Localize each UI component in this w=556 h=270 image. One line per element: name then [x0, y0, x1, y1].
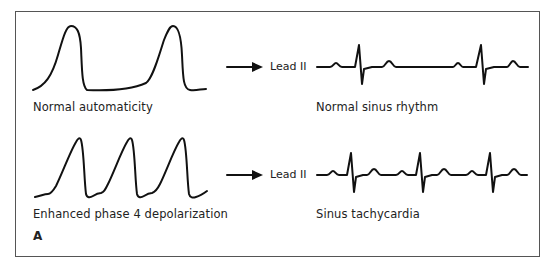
ecg-sinus-tachycardia: [317, 153, 527, 192]
label-enhanced-phase4: Enhanced phase 4 depolarization: [33, 207, 228, 221]
label-sinus-tachycardia: Sinus tachycardia: [316, 207, 420, 221]
lead-ii-label-row2: Lead II: [270, 168, 306, 181]
arrow-row1-head: [252, 62, 263, 72]
arrow-row2-head: [252, 170, 263, 180]
label-normal-automaticity: Normal automaticity: [33, 100, 153, 114]
lead-ii-label-row1: Lead II: [270, 60, 306, 73]
figure-artwork: [0, 0, 556, 270]
action-potential-enhanced: [35, 138, 207, 197]
panel-letter: A: [33, 229, 42, 243]
action-potential-normal: [33, 26, 206, 90]
label-normal-sinus-rhythm: Normal sinus rhythm: [316, 100, 438, 114]
ecg-normal-sinus: [317, 45, 528, 84]
